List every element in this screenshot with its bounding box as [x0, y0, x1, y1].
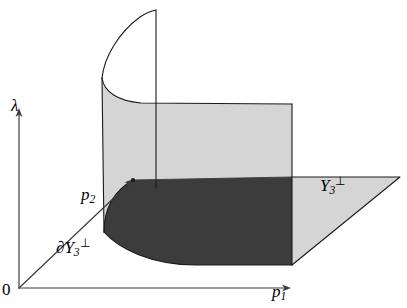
p1-axis-label: p1 — [272, 283, 286, 303]
cylinder-top-rim-arc — [102, 78, 292, 104]
cylinder-top-free-edge — [102, 10, 156, 78]
p2-label-subscript: 2 — [90, 193, 96, 206]
origin-label: 0 — [2, 281, 11, 298]
figure-svg — [0, 0, 407, 308]
p1-label-subscript: 1 — [281, 290, 287, 303]
boundary-label-perp: ⊥ — [80, 236, 90, 250]
p2-axis-label: p2 — [81, 186, 95, 206]
p1-label-base: p — [272, 282, 281, 301]
lambda-axis-label: λ — [11, 97, 18, 114]
boundary-region-label: ∂Y3⊥ — [56, 238, 90, 259]
region-label: Y3⊥ — [320, 176, 345, 197]
boundary-label-base: ∂Y — [56, 238, 74, 257]
region-label-perp: ⊥ — [335, 174, 345, 188]
p2-label-base: p — [81, 185, 90, 204]
figure-root: λ 0 p1 p2 ∂Y3⊥ Y3⊥ — [0, 0, 407, 308]
p2-endpoint-dot — [131, 178, 135, 182]
